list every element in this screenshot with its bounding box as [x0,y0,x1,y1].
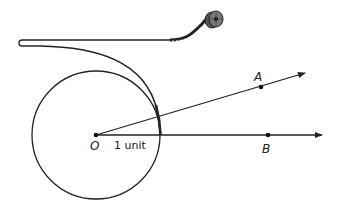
label-o: O [90,139,99,153]
point-o [94,133,99,138]
point-a [259,85,264,90]
ray-oa [96,73,305,135]
tape-roll-icon [205,11,223,28]
label-radius: 1 unit [114,139,146,152]
diagram-canvas: O A B 1 unit [0,0,340,214]
tape-measure [19,17,208,135]
label-b: B [262,142,270,156]
point-b [266,133,271,138]
label-a: A [253,70,262,84]
